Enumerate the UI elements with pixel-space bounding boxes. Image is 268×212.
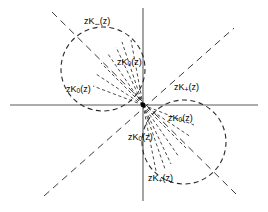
axes-group — [10, 8, 258, 201]
label-zk-plus-bottom: zK+(z) — [148, 174, 173, 184]
label-zk-zero-upper-inner-tail: (z) — [131, 57, 142, 67]
label-zk-plus-right: zK+(z) — [174, 83, 199, 93]
label-zk-zero-upper-inner-base: zK — [117, 57, 128, 67]
label-zk-plus-bottom-tail: (z) — [163, 173, 174, 183]
ray-ul-6 — [122, 42, 143, 105]
origin-marker — [141, 103, 146, 108]
label-zk-zero-left-base: zK — [66, 84, 77, 94]
label-zk-zero-lower-inner-tail: (z) — [182, 113, 193, 123]
label-zk-zero-left-tail: (z) — [80, 84, 91, 94]
label-zk-plus-bottom-base: zK — [148, 173, 159, 183]
label-zk-zero-lower-center: zK0(z) — [128, 133, 153, 143]
label-zk-zero-lower-inner-base: zK — [168, 113, 179, 123]
figure-container: zK−(z) zK0(z) zK0(z) zK+(z) zK0(z) zK0(z… — [0, 0, 268, 212]
label-zk-zero-lower-inner: zK0(z) — [168, 114, 193, 124]
diagram-canvas — [0, 0, 268, 212]
label-zk-zero-lower-center-base: zK — [128, 132, 139, 142]
label-zk-minus-top-tail: (z) — [100, 16, 111, 26]
label-zk-minus-top: zK−(z) — [84, 17, 110, 29]
label-zk-zero-lower-center-tail: (z) — [142, 132, 153, 142]
diagonal-lower-left-to-upper-right — [44, 28, 234, 196]
label-zk-minus-top-base: zK — [84, 16, 95, 26]
label-zk-zero-left: zK0(z) — [66, 85, 91, 95]
label-zk-plus-right-tail: (z) — [189, 82, 200, 92]
label-zk-plus-right-base: zK — [174, 82, 185, 92]
label-zk-zero-upper-inner: zK0(z) — [117, 58, 142, 68]
